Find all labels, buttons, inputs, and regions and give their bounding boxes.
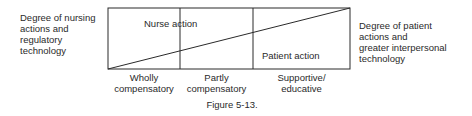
mode-label-partly-compensatory: Partly compensatory <box>180 73 253 94</box>
mode-label-line: compensatory <box>180 84 253 95</box>
mode-label-line: educative <box>253 84 350 95</box>
right-axis-label: Degree of patient actions and greater in… <box>359 20 471 64</box>
mode-label-wholly-compensatory: Wholly compensatory <box>108 73 180 94</box>
right-axis-label-line: actions and <box>359 31 471 42</box>
right-axis-label-line: Degree of patient <box>359 20 471 31</box>
mode-label-line: compensatory <box>108 84 180 95</box>
patient-action-label: Patient action <box>262 50 320 61</box>
mode-label-supportive-educative: Supportive/ educative <box>253 73 350 94</box>
mode-label-line: Wholly <box>108 73 180 84</box>
mode-label-line: Supportive/ <box>253 73 350 84</box>
figure-caption: Figure 5-13. <box>0 99 464 110</box>
mode-label-line: Partly <box>180 73 253 84</box>
right-axis-label-line: greater interpersonal <box>359 42 471 53</box>
nurse-action-label: Nurse action <box>144 18 197 29</box>
right-axis-label-line: technology <box>359 53 471 64</box>
